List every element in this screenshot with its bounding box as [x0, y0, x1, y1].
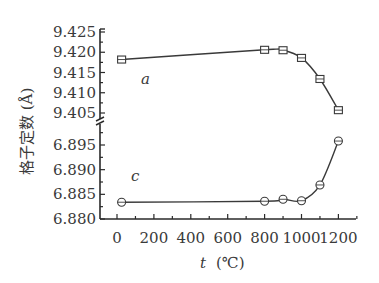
lattice-constant-chart: 9.4059.4109.4159.4209.4256.8806.8856.890…: [0, 0, 379, 283]
y-tick-label: 9.415: [53, 64, 96, 82]
axes: [96, 29, 356, 219]
y-tick-label: 9.420: [53, 43, 96, 61]
x-tick-label: 600: [213, 229, 242, 247]
y-tick-label: 6.895: [53, 136, 96, 154]
y-axis-label: 格子定数 (Å): [18, 88, 36, 175]
y-tick-label: 6.880: [53, 210, 96, 228]
x-tick-label: 1000: [282, 229, 320, 247]
y-tick-label: 9.405: [53, 104, 96, 122]
y-tick-label: 6.885: [53, 185, 96, 203]
x-tick-label: 200: [140, 229, 169, 247]
x-tick-label: 800: [250, 229, 279, 247]
series-label-c: c: [131, 167, 140, 185]
x-axis-label-var: t: [200, 254, 207, 272]
x-axis-label-unit: (℃): [216, 254, 244, 272]
x-tick-label: 0: [112, 229, 122, 247]
x-tick-label: 400: [176, 229, 205, 247]
data-series: [118, 46, 343, 206]
series-label-a: a: [141, 70, 150, 88]
y-tick-label: 9.410: [53, 84, 96, 102]
series-line-c: [122, 141, 339, 202]
y-tick-label: 9.425: [53, 23, 96, 41]
y-tick-label: 6.890: [53, 161, 96, 179]
axis-ticks: 9.4059.4109.4159.4209.4256.8806.8856.890…: [53, 23, 357, 247]
x-tick-label: 1200: [319, 229, 357, 247]
